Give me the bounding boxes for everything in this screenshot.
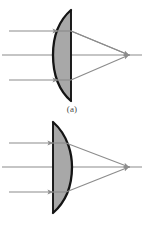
lens-fill-b (53, 122, 72, 213)
figure-sheet: (a) (b) (0, 0, 144, 227)
refracted-ray-lower-b (66, 167, 129, 192)
refracted-ray-lower-a (71, 55, 129, 80)
refracted-ray-upper-b (66, 143, 129, 167)
focal-point-b (128, 166, 130, 168)
lens-diagram-a (0, 0, 144, 118)
refracted-ray-upper-tail-a (71, 31, 129, 55)
diagram-panel-a: (a) (0, 0, 144, 118)
lens-fill-a (53, 10, 71, 101)
diagram-panel-b: (b) (0, 112, 144, 227)
focal-point-a (128, 54, 130, 56)
lens-diagram-b (0, 112, 144, 227)
